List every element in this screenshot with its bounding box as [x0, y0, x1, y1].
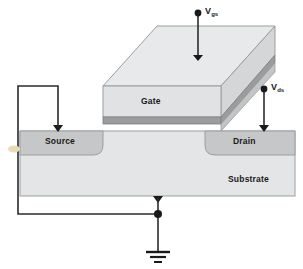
vds-terminal-dot[interactable] — [261, 86, 268, 93]
tan-marker-icon — [8, 145, 20, 152]
vgs-subscript: gs — [211, 11, 218, 17]
vds-subscript: ds — [277, 87, 284, 93]
mosfet-diagram — [0, 0, 303, 269]
substrate-label: Substrate — [228, 175, 269, 184]
junction-dot — [154, 210, 162, 218]
vds-label: Vds — [271, 83, 284, 92]
gate-front-face — [103, 86, 221, 117]
vgs-terminal-dot[interactable] — [195, 10, 202, 17]
vgs-label: Vgs — [205, 7, 218, 16]
drain-label: Drain — [233, 137, 256, 146]
figure-canvas: Gate Source Drain Substrate Vgs Vds — [0, 0, 303, 269]
oxide-layer-front — [103, 117, 221, 124]
gate-label: Gate — [141, 97, 161, 106]
source-label: Source — [45, 137, 75, 146]
